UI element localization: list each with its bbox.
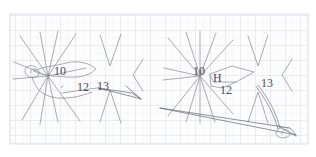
sketch-canvas: 10 12 13 10 H 12 13 xyxy=(0,0,316,157)
right-label-13: 13 xyxy=(261,78,273,89)
right-label-10: 10 xyxy=(193,66,205,77)
right-label-12: 12 xyxy=(220,85,232,96)
left-label-13: 13 xyxy=(97,81,109,92)
left-label-12: 12 xyxy=(77,82,89,93)
left-label-10: 10 xyxy=(54,66,66,77)
